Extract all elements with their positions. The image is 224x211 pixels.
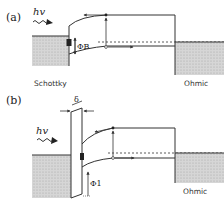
barrier-height-b: Φ1 bbox=[90, 179, 102, 188]
ohmic-label-b: Ohmic bbox=[183, 187, 207, 196]
conduction-band-a bbox=[69, 15, 175, 42]
panel-a-label: (a) bbox=[6, 11, 21, 24]
interface-state-a bbox=[67, 39, 72, 46]
schottky-metal bbox=[32, 36, 69, 66]
panel-b-label: (b) bbox=[6, 94, 22, 107]
ohmic-label-a: Ohmic bbox=[184, 79, 208, 88]
photon-b-label: hv bbox=[36, 125, 48, 136]
barrier-height-a: ΦB bbox=[77, 42, 90, 51]
panel-a: (a) hv ΦB Schottky Ohmic bbox=[6, 6, 224, 88]
photon-b-wave-icon bbox=[37, 139, 53, 142]
schottky-label: Schottky bbox=[34, 79, 67, 88]
photon-a-label: hv bbox=[33, 6, 45, 17]
metal-b bbox=[32, 155, 71, 198]
photon-b-arrow-icon bbox=[51, 137, 58, 144]
ohmic-metal-b bbox=[175, 153, 224, 183]
band-diagram: (a) hv ΦB Schottky Ohmic (b) bbox=[0, 0, 224, 211]
interface-state-b bbox=[80, 153, 84, 160]
photon-a-arrow-icon bbox=[46, 19, 53, 25]
ohmic-metal-a bbox=[175, 42, 224, 75]
panel-b: (b) hv δ Φ1 Ohmic bbox=[6, 94, 224, 198]
valence-band-b bbox=[82, 158, 175, 167]
